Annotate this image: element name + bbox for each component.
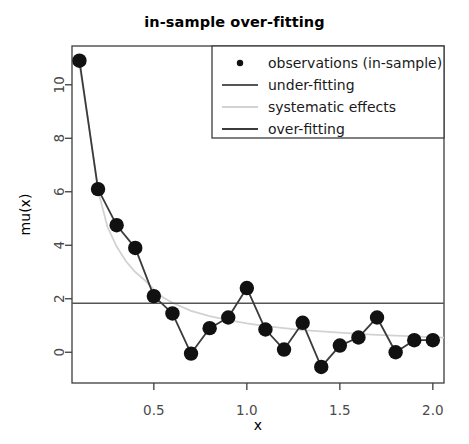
data-point <box>184 346 198 360</box>
data-point <box>388 345 402 359</box>
legend-label: over-fitting <box>268 121 345 137</box>
data-point <box>258 322 272 336</box>
x-axis-tick-label: 0.5 <box>143 402 164 418</box>
y-axis-tick-label: 4 <box>51 241 67 250</box>
x-axis-tick-label: 2.0 <box>422 402 443 418</box>
data-point <box>426 333 440 347</box>
legend-label: systematic effects <box>268 99 396 115</box>
legend-label: under-fitting <box>268 77 355 93</box>
chart-container: in-sample over-fitting 02468100.51.01.52… <box>0 0 469 444</box>
data-point <box>407 333 421 347</box>
data-point <box>277 342 291 356</box>
y-axis-tick-label: 10 <box>51 76 67 93</box>
legend-marker-point <box>237 60 243 66</box>
data-point <box>295 316 309 330</box>
legend-label: observations (in-sample) <box>268 55 442 71</box>
data-point <box>351 330 365 344</box>
legend-group: observations (in-sample)under-fittingsys… <box>212 46 444 138</box>
data-point <box>91 182 105 196</box>
x-axis-title: x <box>254 417 262 433</box>
y-axis-tick-label: 0 <box>51 348 67 357</box>
data-point <box>165 306 179 320</box>
x-axis-tick-label: 1.5 <box>329 402 350 418</box>
data-point <box>333 338 347 352</box>
data-point <box>128 241 142 255</box>
data-point <box>370 310 384 324</box>
data-point <box>72 54 86 68</box>
data-point <box>202 321 216 335</box>
y-axis-tick-label: 2 <box>51 294 67 303</box>
data-point <box>314 360 328 374</box>
data-point <box>240 281 254 295</box>
data-point <box>221 310 235 324</box>
y-axis-tick-label: 6 <box>51 187 67 196</box>
data-point <box>109 218 123 232</box>
x-axis-tick-label: 1.0 <box>236 402 257 418</box>
y-axis-title: mu(x) <box>17 194 33 236</box>
plot-area: 02468100.51.01.52.0xmu(x) observations (… <box>0 0 469 444</box>
y-axis-tick-label: 8 <box>51 134 67 143</box>
data-point <box>147 289 161 303</box>
